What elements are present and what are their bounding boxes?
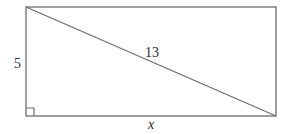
diagram-canvas: 13 5 x	[0, 0, 291, 134]
diagonal-label: 13	[145, 45, 159, 60]
left-side-label: 5	[14, 56, 21, 71]
right-angle-marker-icon	[26, 108, 34, 116]
bottom-side-label: x	[147, 117, 155, 132]
diagonal-line	[26, 7, 276, 116]
